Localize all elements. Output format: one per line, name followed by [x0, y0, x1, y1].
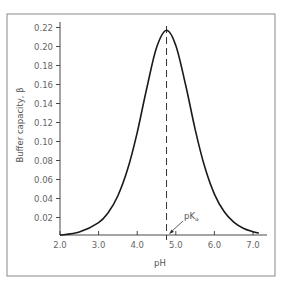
y-tick-label: 0.22 — [34, 23, 53, 33]
x-axis-title: pH — [154, 258, 166, 268]
y-axis-title: Buffer capacity, β — [15, 87, 25, 162]
x-tick-label: 5.0 — [169, 240, 183, 250]
pka-arrow — [171, 221, 183, 232]
y-tick-label: 0.14 — [34, 99, 53, 109]
y-tick-label: 0.02 — [34, 213, 53, 223]
y-tick-label: 0.16 — [34, 80, 53, 90]
x-tick-label: 7.0 — [246, 240, 260, 250]
y-axis: 0.020.040.060.080.100.120.140.160.180.20… — [34, 22, 60, 235]
y-tick-label: 0.04 — [34, 194, 53, 204]
svg-text:pKa: pKa — [184, 211, 199, 222]
buffer-capacity-chart: 0.020.040.060.080.100.120.140.160.180.20… — [0, 0, 284, 284]
y-tick-label: 0.08 — [34, 156, 53, 166]
pka-annotation: pKa — [169, 211, 199, 234]
y-tick-label: 0.06 — [34, 175, 53, 185]
buffer-capacity-curve — [60, 30, 259, 235]
y-tick-label: 0.18 — [34, 61, 53, 71]
pka-subscript: a — [195, 215, 199, 222]
x-axis: 2.03.04.05.06.07.0 — [53, 231, 267, 250]
x-tick-label: 2.0 — [53, 240, 67, 250]
y-tick-label: 0.20 — [34, 42, 53, 52]
x-tick-label: 6.0 — [208, 240, 222, 250]
x-tick-label: 4.0 — [130, 240, 144, 250]
y-tick-label: 0.10 — [34, 137, 53, 147]
pka-label: pK — [184, 211, 195, 221]
y-tick-label: 0.12 — [34, 118, 53, 128]
x-tick-label: 3.0 — [92, 240, 106, 250]
